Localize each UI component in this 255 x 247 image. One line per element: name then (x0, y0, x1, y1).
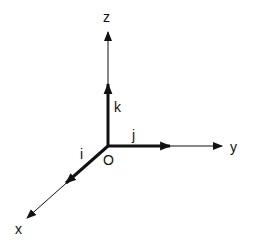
unit-vector-i (66, 146, 108, 183)
origin-label: O (103, 152, 114, 168)
y-axis-label: y (230, 139, 237, 155)
coordinate-axes-diagram: z y x k j i O (0, 0, 255, 247)
x-axis-label: x (15, 221, 22, 237)
z-axis-label: z (103, 9, 110, 25)
j-vector-label: j (131, 127, 135, 143)
i-vector-label: i (80, 146, 83, 162)
k-vector-label: k (114, 99, 122, 115)
